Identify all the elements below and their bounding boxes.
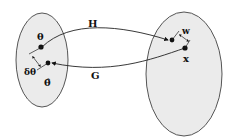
label-w: w — [181, 26, 190, 36]
label-H: H — [88, 18, 97, 29]
label-theta-hat: θ̂ — [44, 77, 51, 88]
label-G: G — [91, 70, 100, 81]
diagram: θ θ̂ δθ H G w x — [0, 0, 225, 138]
label-theta: θ — [37, 31, 44, 42]
label-x: x — [183, 53, 190, 64]
label-delta-theta: δθ — [24, 67, 36, 77]
parameter-space-ellipse — [16, 13, 68, 107]
